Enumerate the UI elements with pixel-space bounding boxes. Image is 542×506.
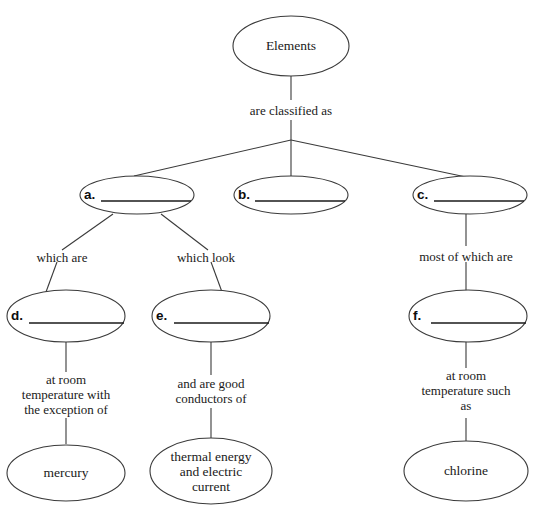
concept-map-diagram: Elements are classified as a. b. c. whic… bbox=[0, 0, 542, 506]
node-blank-d-letter: d. bbox=[11, 308, 23, 323]
node-blank-e[interactable]: e. bbox=[152, 290, 270, 342]
node-thermal-energy-line2: and electric bbox=[180, 464, 243, 479]
link-label-room-temp-exception: at room temperature with the exception o… bbox=[22, 372, 111, 417]
concept-map-canvas: Elements are classified as a. b. c. whic… bbox=[0, 0, 542, 506]
node-blank-a[interactable]: a. bbox=[80, 176, 194, 214]
node-blank-a-letter: a. bbox=[84, 187, 95, 202]
connector-a-to-which-look bbox=[161, 214, 208, 250]
node-elements[interactable]: Elements bbox=[233, 16, 349, 76]
connector-fan-to-c bbox=[291, 140, 466, 177]
node-thermal-energy-line3: current bbox=[192, 479, 230, 494]
link-label-room-temp-such-as-line2: temperature such bbox=[421, 383, 511, 398]
connector-a-to-which-are bbox=[62, 214, 113, 250]
link-label-room-temp-exception-line1: at room bbox=[46, 372, 86, 387]
link-label-room-temp-exception-line3: the exception of bbox=[24, 402, 108, 417]
node-mercury-label: mercury bbox=[44, 465, 89, 480]
node-blank-b-shape bbox=[234, 176, 348, 214]
connector-which-are-to-d bbox=[46, 262, 57, 292]
node-blank-f-shape bbox=[409, 290, 527, 342]
connector-fan-to-a bbox=[134, 140, 291, 176]
node-blank-e-shape bbox=[152, 290, 270, 342]
link-label-most-of-which-are: most of which are bbox=[419, 249, 513, 264]
link-label-room-temp-such-as-line3: as bbox=[461, 398, 472, 413]
node-blank-f[interactable]: f. bbox=[409, 290, 527, 342]
link-label-which-are: which are bbox=[37, 250, 88, 265]
node-blank-b[interactable]: b. bbox=[234, 176, 348, 214]
link-label-good-conductors: and are good conductors of bbox=[175, 376, 247, 406]
link-label-good-conductors-line1: and are good bbox=[177, 376, 245, 391]
node-blank-d-shape bbox=[7, 290, 125, 342]
node-chlorine-label: chlorine bbox=[444, 463, 488, 478]
link-label-which-look: which look bbox=[177, 250, 236, 265]
node-thermal-energy-line1: thermal energy bbox=[170, 449, 251, 464]
node-blank-d[interactable]: d. bbox=[7, 290, 125, 342]
node-blank-b-letter: b. bbox=[238, 187, 250, 202]
link-label-room-temp-exception-line2: temperature with bbox=[22, 387, 111, 402]
link-label-room-temp-such-as-line1: at room bbox=[446, 368, 486, 383]
link-label-are-classified-as: are classified as bbox=[250, 103, 332, 118]
link-label-room-temp-such-as: at room temperature such as bbox=[421, 368, 511, 413]
link-label-good-conductors-line2: conductors of bbox=[175, 391, 247, 406]
node-mercury[interactable]: mercury bbox=[7, 445, 125, 501]
node-thermal-energy[interactable]: thermal energy and electric current bbox=[150, 438, 272, 504]
node-elements-label: Elements bbox=[266, 38, 316, 53]
connector-which-look-to-e bbox=[211, 262, 222, 292]
node-blank-c-letter: c. bbox=[417, 187, 428, 202]
node-blank-f-letter: f. bbox=[413, 308, 421, 323]
node-chlorine[interactable]: chlorine bbox=[404, 441, 528, 501]
node-blank-a-shape bbox=[80, 176, 194, 214]
node-blank-c-shape bbox=[413, 176, 527, 214]
node-blank-c[interactable]: c. bbox=[413, 176, 527, 214]
node-blank-e-letter: e. bbox=[156, 308, 167, 323]
